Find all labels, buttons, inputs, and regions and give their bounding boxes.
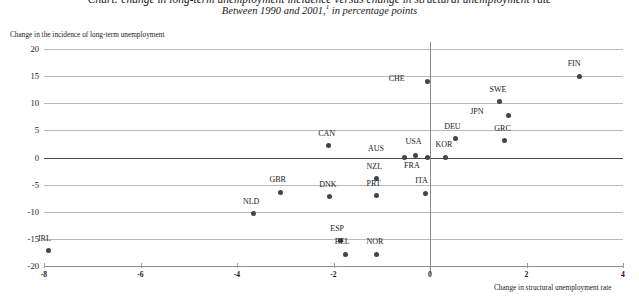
subtitle-prefix: Between 1990 and 2001,	[222, 5, 326, 16]
data-point-gbr[interactable]	[278, 190, 283, 195]
y-axis-label: Change in the incidence of long-term une…	[10, 30, 164, 39]
subtitle-suffix: in percentage points	[329, 5, 417, 16]
data-point-kor[interactable]	[443, 155, 448, 160]
x-tick-label--4: -4	[222, 271, 252, 279]
data-point-label-nld: NLD	[243, 198, 259, 206]
data-point-ita[interactable]	[423, 191, 428, 196]
x-tick-label-2: 2	[512, 271, 542, 279]
data-point-label-grc: GRC	[494, 125, 510, 133]
data-point-label-can: CAN	[318, 130, 335, 138]
y-tick-label--5: -5	[5, 181, 39, 190]
gridline-y-15	[44, 76, 623, 77]
y-tick-label-10: 10	[5, 99, 39, 108]
data-point-usa[interactable]	[413, 153, 418, 158]
y-axis-line	[430, 42, 431, 273]
x-tick-label-0: 0	[415, 271, 445, 279]
data-point-label-fra: FRA	[404, 162, 420, 170]
x-tick-mark-4	[623, 263, 624, 268]
x-axis-label: Change in structural unemployment rate	[494, 283, 612, 292]
x-tick-mark--4	[237, 263, 238, 268]
gridline-y--10	[44, 212, 623, 213]
data-point-label-nzl: NZL	[366, 163, 382, 171]
data-point-label-swe: SWE	[490, 86, 507, 94]
data-point-nld[interactable]	[251, 211, 256, 216]
data-point-label-aus: AUS	[368, 145, 384, 153]
y-tick-label--20: -20	[5, 262, 39, 271]
chart-subtitle: Between 1990 and 2001,1 in percentage po…	[0, 3, 639, 16]
data-point-jpn[interactable]	[506, 113, 511, 118]
data-point-grc[interactable]	[502, 138, 507, 143]
x-tick-label--6: -6	[126, 271, 156, 279]
data-point-label-prt: PRT	[366, 180, 380, 188]
data-point-fin[interactable]	[577, 74, 582, 79]
data-point-label-usa: USA	[406, 138, 422, 146]
data-point-irl[interactable]	[46, 248, 51, 253]
data-point-aus[interactable]	[402, 155, 407, 160]
data-point-label-jpn: JPN	[470, 108, 483, 116]
data-point-label-ita: ITA	[415, 177, 428, 185]
plot-area: 20151050-5-10-15-20 -8-6-4-2024 FINCHESW…	[44, 49, 623, 266]
data-point-prt[interactable]	[374, 193, 379, 198]
x-tick-label-4: 4	[608, 271, 638, 279]
y-tick-label-20: 20	[5, 45, 39, 54]
y-tick-label--15: -15	[5, 235, 39, 244]
data-point-label-esp: ESP	[330, 225, 344, 233]
data-point-nor[interactable]	[374, 252, 379, 257]
data-point-label-kor: KOR	[435, 141, 452, 149]
gridline-y--15	[44, 239, 623, 240]
gridline-y-20	[44, 49, 623, 50]
y-tick-label-15: 15	[5, 72, 39, 81]
y-tick-label-5: 5	[5, 126, 39, 135]
x-tick-mark--8	[44, 263, 45, 268]
data-point-deu[interactable]	[453, 136, 458, 141]
data-point-label-che: CHE	[389, 75, 405, 83]
data-point-label-nor: NOR	[366, 238, 383, 246]
gridline-y-0	[44, 158, 623, 159]
data-point-label-bel: BEL	[335, 238, 350, 246]
gridline-y-10	[44, 103, 623, 104]
x-tick-mark--6	[141, 263, 142, 268]
data-point-bel[interactable]	[343, 252, 348, 257]
data-point-label-irl: IRL	[38, 235, 51, 243]
data-point-label-fin: FIN	[568, 60, 581, 68]
scatter-chart-figure: Chart: change in long-term unemployment …	[0, 0, 639, 296]
data-point-can[interactable]	[326, 143, 331, 148]
y-tick-label-0: 0	[5, 154, 39, 163]
x-tick-mark-2	[527, 263, 528, 268]
data-point-label-gbr: GBR	[269, 176, 285, 184]
x-tick-mark--2	[334, 263, 335, 268]
data-point-label-dnk: DNK	[319, 181, 336, 189]
data-point-dnk[interactable]	[327, 194, 332, 199]
x-tick-label--8: -8	[29, 271, 59, 279]
data-point-label-deu: DEU	[444, 123, 460, 131]
y-tick-label--10: -10	[5, 208, 39, 217]
x-tick-label--2: -2	[319, 271, 349, 279]
